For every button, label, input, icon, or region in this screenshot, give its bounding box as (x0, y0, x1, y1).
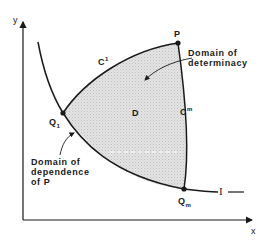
point-Q1 (60, 110, 65, 115)
diagram-canvas (0, 0, 269, 243)
point-Qm (181, 186, 186, 191)
y-axis-label: y (13, 15, 18, 25)
label-Q1: Q1 (49, 117, 61, 127)
point-P (175, 40, 180, 45)
label-Qm: Qm (178, 196, 192, 206)
x-axis-label: x (251, 226, 256, 236)
label-C1: C1 (98, 57, 109, 67)
label-Cm: Cm (180, 107, 193, 117)
label-P: P (174, 29, 181, 39)
region-label-D: D (132, 108, 139, 118)
dependence-arrow (60, 133, 74, 155)
annotation-dependence: Domain of dependence of P (31, 157, 90, 187)
label-I: I (219, 186, 223, 196)
annotation-determinacy: Domain of determinacy (188, 48, 248, 68)
